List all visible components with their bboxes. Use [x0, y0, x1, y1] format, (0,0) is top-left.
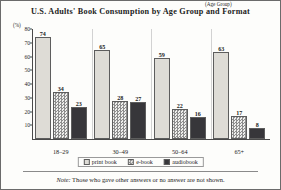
x-axis-unit-label: (Age Group): [205, 1, 232, 7]
bar-e-book-65+[interactable]: 17: [231, 116, 247, 139]
bar-value-label: 59: [159, 52, 165, 58]
bar-value-label: 22: [177, 103, 183, 109]
x-axis-label-65+: 65+: [234, 148, 244, 155]
x-axis-line: [32, 139, 270, 140]
legend-swatch-e-book-icon: [128, 159, 134, 165]
plot-wrapper: (%) 102030405060708074342365282759221663…: [1, 21, 281, 147]
group-separator: [92, 29, 93, 139]
legend-label: e-book: [136, 159, 153, 165]
group-separator: [151, 29, 152, 139]
chart-figure: U.S. Adults' Book Consumption by Age Gro…: [0, 0, 281, 190]
bar-value-label: 65: [99, 44, 105, 50]
legend-item-audiobook[interactable]: audiobook: [164, 159, 198, 165]
bar-value-label: 8: [256, 122, 259, 128]
bar-print-book-65+[interactable]: 63: [213, 52, 229, 139]
bar-print-book-3049[interactable]: 65: [94, 50, 110, 139]
x-axis-label-1829: 18–29: [53, 148, 68, 155]
y-axis-tick-label: 10: [24, 122, 30, 128]
note-text: Those who gave other answers or no answe…: [71, 176, 225, 183]
legend-item-print-book[interactable]: print book: [83, 159, 116, 165]
bar-group: 652827: [94, 29, 146, 139]
legend-swatch-audiobook-icon: [164, 159, 170, 165]
plot-area: 102030405060708074342365282759221663178: [32, 29, 270, 139]
bar-e-book-1829[interactable]: 34: [53, 92, 69, 139]
y-axis-tick-label: 50: [24, 67, 30, 73]
bar-value-label: 17: [236, 110, 242, 116]
chart-legend: print booke-bookaudiobook: [77, 157, 203, 167]
bar-group: 743423: [35, 29, 87, 139]
y-axis-tick-label: 80: [24, 26, 30, 32]
legend-swatch-print-book-icon: [83, 159, 89, 165]
bar-audiobook-3049[interactable]: 27: [130, 102, 146, 139]
bar-value-label: 23: [76, 101, 82, 107]
bar-e-book-3049[interactable]: 28: [112, 101, 128, 140]
legend-label: audiobook: [172, 159, 197, 165]
x-axis-label-3049: 30–49: [113, 148, 128, 155]
bar-value-label: 74: [40, 31, 46, 37]
bar-value-label: 63: [218, 46, 224, 52]
bar-value-label: 28: [117, 95, 123, 101]
y-axis-tick-label: 40: [24, 81, 30, 87]
group-separator: [211, 29, 212, 139]
legend-label: print book: [92, 159, 117, 165]
bar-value-label: 16: [195, 111, 201, 117]
bar-value-label: 34: [58, 86, 64, 92]
chart-title: U.S. Adults' Book Consumption by Age Gro…: [1, 7, 280, 16]
bar-value-label: 27: [135, 96, 141, 102]
y-axis-tick-label: 70: [24, 40, 30, 46]
note-label: Note:: [56, 176, 70, 183]
x-axis-label-5064: 50–64: [172, 148, 187, 155]
bar-audiobook-5064[interactable]: 16: [190, 117, 206, 139]
y-axis-tick-label: 60: [24, 54, 30, 60]
bar-audiobook-65+[interactable]: 8: [249, 128, 265, 139]
bar-print-book-1829[interactable]: 74: [35, 37, 51, 139]
bar-group: 592216: [154, 29, 206, 139]
bar-e-book-5064[interactable]: 22: [172, 109, 188, 139]
note-divider: [23, 171, 258, 172]
y-axis-unit-label: (%): [13, 22, 21, 28]
legend-item-e-book[interactable]: e-book: [128, 159, 153, 165]
y-axis-tick-label: 30: [24, 95, 30, 101]
bar-print-book-5064[interactable]: 59: [154, 58, 170, 139]
y-axis-tick-label: 20: [24, 109, 30, 115]
bar-audiobook-1829[interactable]: 23: [71, 107, 87, 139]
bar-group: 63178: [213, 29, 265, 139]
chart-note: Note: Those who gave other answers or no…: [1, 176, 280, 183]
